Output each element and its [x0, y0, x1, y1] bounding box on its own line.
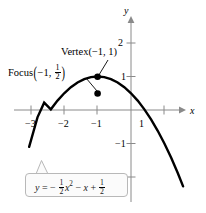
parabola-curve	[29, 77, 183, 187]
vertex-leader-line	[100, 60, 109, 74]
x-tick-label--1: −1	[91, 119, 102, 129]
vertex-annotation-point: (−1, 1)	[88, 46, 117, 57]
parabola-figure: x y −3 −2 −1 1 2 1 −1 −2 Vertex(−1, 1) F…	[0, 0, 206, 213]
callout-tail	[36, 161, 48, 175]
vertex-annotation: Vertex(−1, 1)	[61, 47, 117, 58]
equation-callout-box: y = − 12x2 − x + 12	[25, 173, 128, 197]
equation-term3-denominator: 2	[99, 187, 105, 196]
equation-equals: =	[42, 182, 48, 193]
equation-term3-fraction: 12	[99, 179, 105, 196]
equation-lhs: y	[35, 182, 39, 193]
equation-term3-sign: +	[91, 182, 97, 193]
y-tick-label--1: −1	[115, 139, 126, 149]
equation-term2-sign: −	[75, 182, 81, 193]
focus-close-paren: )	[62, 65, 66, 81]
focus-point	[94, 90, 101, 97]
x-axis-label: x	[190, 106, 194, 116]
vertex-annotation-name: Vertex	[61, 46, 88, 57]
focus-fraction-denominator: 2	[55, 72, 61, 81]
x-tick-label-1: 1	[139, 119, 144, 129]
equation-term1-sign: −	[50, 182, 56, 193]
focus-annotation-name: Focus	[8, 67, 33, 78]
y-tick-label-1: 1	[121, 72, 126, 82]
x-tick-label--2: −2	[58, 119, 69, 129]
equation-term3-numerator: 1	[99, 179, 105, 187]
equation-term1-denominator: 2	[59, 187, 65, 196]
equation-term1-numerator: 1	[59, 179, 65, 187]
focus-open-paren: (	[34, 65, 38, 81]
equation-term1-fraction: 12	[59, 179, 65, 196]
focus-leader-line	[86, 78, 97, 91]
equation-term1-exponent: 2	[69, 180, 73, 188]
y-axis-label: y	[124, 6, 128, 16]
equation-term2-variable: x	[84, 182, 88, 193]
x-axis-arrow-icon	[179, 107, 186, 114]
focus-fraction-numerator: 1	[55, 64, 61, 72]
focus-x-value: −1,	[38, 67, 54, 78]
focus-annotation: Focus(−1, 12)	[8, 64, 66, 81]
x-tick-label--3: −3	[25, 119, 36, 129]
focus-fraction: 12	[55, 64, 61, 81]
equation-text: y = − 12x2 − x + 12	[35, 179, 105, 196]
y-axis-arrow-icon	[128, 16, 135, 23]
y-tick-label-2: 2	[118, 38, 123, 48]
vertex-point	[94, 74, 101, 81]
